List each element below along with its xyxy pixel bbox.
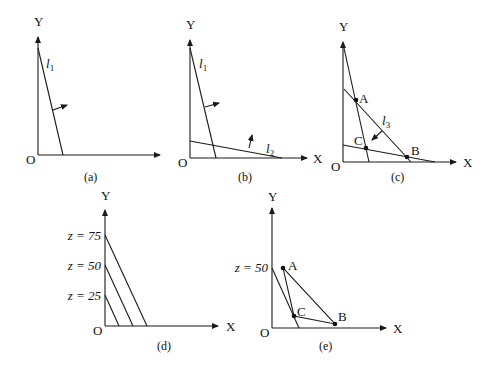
level-line-z50 [105, 265, 133, 326]
origin-label: O [331, 159, 340, 174]
vertex-point-c [364, 146, 369, 151]
panel-caption: (a) [84, 170, 97, 184]
feasible-triangle-abc [283, 268, 335, 324]
level-label-z75: z = 75 [67, 228, 102, 243]
line-label-l1: l1 [46, 56, 54, 73]
line-label-l1: l1 [199, 56, 207, 73]
panel-caption: (b) [238, 170, 252, 184]
panel-c: Y X O l3 A B C (c) [331, 19, 473, 184]
point-label-c: C [297, 304, 306, 319]
x-axis-label: X [313, 151, 323, 166]
vertex-point-a [281, 266, 286, 271]
vertex-point-b [333, 322, 338, 327]
vertex-point-c [292, 314, 297, 319]
panel-caption: (c) [391, 170, 404, 184]
y-axis-label: Y [268, 189, 278, 204]
panel-e: Y X O z = 50 A B C (e) [234, 189, 403, 353]
point-label-c: C [354, 133, 363, 148]
y-axis-label: Y [186, 17, 196, 32]
direction-arrow-icon [205, 103, 219, 107]
origin-label: O [178, 155, 187, 170]
level-label-z25: z = 25 [67, 288, 102, 303]
figure-canvas: Y O l1 (a) Y X O l1 l2 (b) Y X O [0, 0, 495, 368]
level-label-z50: z = 50 [67, 258, 102, 273]
direction-arrow-icon [249, 135, 252, 148]
line-label-l2: l2 [266, 141, 274, 158]
origin-label: O [93, 323, 102, 338]
point-label-b: B [338, 309, 347, 324]
origin-label: O [26, 152, 35, 167]
panel-a: Y O l1 (a) [26, 14, 160, 184]
line-label-l3: l3 [382, 113, 391, 130]
panel-d: Y X O z = 75 z = 50 z = 25 (d) [67, 188, 236, 353]
point-label-b: B [411, 143, 420, 158]
x-axis-label: X [463, 155, 473, 170]
panel-caption: (d) [157, 339, 171, 353]
level-line-z25 [105, 295, 119, 326]
level-label-z50: z = 50 [234, 260, 269, 275]
vertex-point-b [405, 155, 410, 160]
point-label-a: A [288, 258, 298, 273]
panel-b: Y X O l1 l2 (b) [178, 17, 323, 184]
y-axis-label: Y [34, 14, 44, 29]
direction-arrow-icon [372, 131, 382, 140]
x-axis-label: X [226, 319, 236, 334]
x-axis-label: X [393, 321, 403, 336]
panel-caption: (e) [319, 339, 332, 353]
vertex-point-a [354, 98, 359, 103]
direction-arrow-icon [53, 105, 67, 110]
origin-label: O [260, 325, 269, 340]
level-line-z75 [105, 235, 147, 326]
y-axis-label: Y [101, 188, 111, 203]
y-axis-label: Y [339, 19, 349, 34]
point-label-a: A [359, 91, 369, 106]
